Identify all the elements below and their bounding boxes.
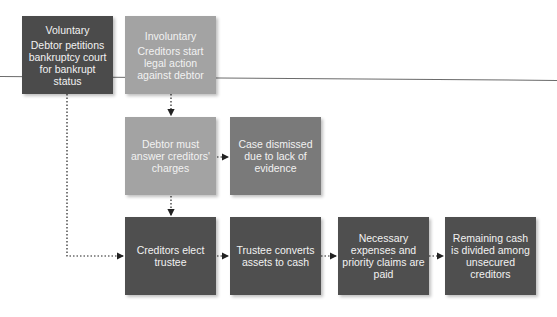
node-text: Case dismissed due to lack of evidence xyxy=(234,138,317,174)
node-text: Trustee converts assets to cash xyxy=(234,244,317,268)
node-title: Involuntary xyxy=(145,30,196,42)
node-text: Necessary expenses and priority claims a… xyxy=(342,232,425,280)
node-text: Debtor must answer creditors' charges xyxy=(129,138,212,174)
node-text: Creditors elect trustee xyxy=(129,244,212,268)
node-title: Voluntary xyxy=(46,24,90,36)
node-debtor-answer: Debtor must answer creditors' charges xyxy=(125,117,216,195)
connector-voluntary-to-elect xyxy=(67,94,123,256)
node-case-dismissed: Case dismissed due to lack of evidence xyxy=(230,117,321,195)
node-priority-claims: Necessary expenses and priority claims a… xyxy=(338,217,429,295)
node-text: Debtor petitions bankruptcy court for ba… xyxy=(26,39,109,87)
node-elect-trustee: Creditors elect trustee xyxy=(125,217,216,295)
node-text: Creditors start legal action against deb… xyxy=(129,45,212,81)
node-voluntary: Voluntary Debtor petitions bankruptcy co… xyxy=(22,16,113,94)
node-involuntary: Involuntary Creditors start legal action… xyxy=(125,16,216,94)
node-text: Remaining cash is divided among unsecure… xyxy=(449,232,532,280)
node-remaining-cash: Remaining cash is divided among unsecure… xyxy=(445,217,536,295)
node-trustee-converts: Trustee converts assets to cash xyxy=(230,217,321,295)
